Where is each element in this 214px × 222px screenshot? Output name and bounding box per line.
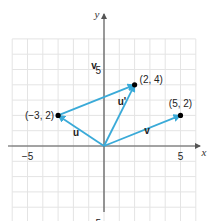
- vector-label-u: u: [73, 127, 79, 138]
- vector-diagram: xy−555−5(−3, 2)(2, 4)(5, 2)uvu'v: [0, 0, 214, 221]
- x-tick-label: −5: [22, 151, 34, 162]
- x-tick-label: 5: [178, 151, 184, 162]
- y-axis-label: y: [94, 8, 100, 20]
- y-tick-label: −5: [90, 218, 102, 222]
- point: [56, 113, 61, 118]
- x-axis-label: x: [201, 146, 207, 158]
- point: [132, 82, 137, 87]
- point-label: (−3, 2): [25, 110, 54, 121]
- point-label: (2, 4): [140, 74, 163, 85]
- vector-label-v: v: [91, 60, 97, 71]
- vector-label-v: v: [144, 125, 150, 136]
- point: [178, 113, 183, 118]
- point-label: (5, 2): [169, 98, 192, 109]
- vector-label-u-prime: u': [118, 96, 127, 107]
